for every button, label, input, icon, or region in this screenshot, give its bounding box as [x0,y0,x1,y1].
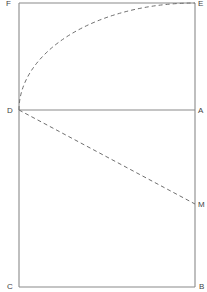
dashed-line-dm [19,110,195,204]
dashed-arc-de [19,3,195,110]
point-label-f: F [6,0,11,8]
point-label-b: B [199,283,204,291]
point-label-m: M [198,201,205,209]
construction-diagram [0,0,207,292]
point-label-a: A [198,107,203,115]
point-label-e: E [198,0,203,8]
point-label-d: D [7,107,13,115]
point-label-c: C [7,283,13,291]
